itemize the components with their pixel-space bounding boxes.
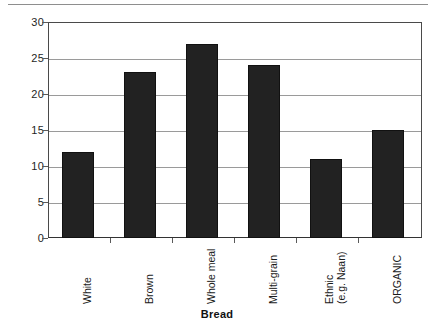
x-label-whole-meal: Whole meal: [206, 212, 218, 304]
bar-whole-meal: [186, 44, 218, 238]
x-axis-title: Bread: [0, 308, 434, 320]
y-tick-label-20: 20: [4, 89, 44, 100]
x-label-multi-grain: Multi-grain: [268, 212, 280, 304]
x-axis-labels: White Brown Whole meal Multi-grain Ethni…: [48, 238, 422, 308]
y-tick-label-10: 10: [4, 161, 44, 172]
y-tick-label-30: 30: [4, 17, 44, 28]
bar-series: [48, 22, 422, 238]
x-label-brown: Brown: [144, 212, 156, 304]
y-tick-label-15: 15: [4, 125, 44, 136]
x-label-ethnic: Ethnic (e.g. Naan): [324, 212, 347, 304]
x-label-organic: ORGANIC: [392, 212, 404, 304]
y-tick-label-5: 5: [4, 197, 44, 208]
x-label-white: White: [82, 212, 94, 304]
y-tick-label-0: 0: [4, 233, 44, 244]
bar-chart: % with residues 30 25 20 15 10 5 0 White…: [0, 0, 434, 330]
y-tick-label-25: 25: [4, 53, 44, 64]
